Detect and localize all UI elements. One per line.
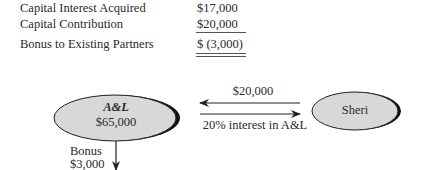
bottom-arrow-label: 20% interest in A&L: [200, 118, 310, 133]
top-arrow-label: $20,000: [220, 84, 286, 99]
node-sheri-title: Sheri: [325, 103, 385, 118]
bonus-amount: $3,000: [70, 157, 104, 170]
node-al-title: A&L: [85, 100, 147, 115]
flow-diagram: [0, 0, 427, 170]
node-al-amount: $65,000: [80, 115, 152, 130]
